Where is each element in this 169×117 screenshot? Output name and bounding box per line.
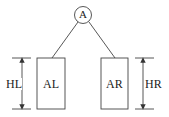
right-height-label: HR: [145, 78, 162, 90]
left-subtree-label: AL: [43, 78, 59, 90]
left-edge: [52, 22, 78, 58]
right-edge: [89, 22, 115, 58]
left-height-label: HL: [6, 78, 22, 90]
root-label: A: [79, 9, 87, 20]
right-subtree-label: AR: [106, 78, 123, 90]
